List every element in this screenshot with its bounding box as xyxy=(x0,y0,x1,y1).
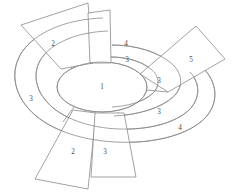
outer-ring-label-left: 3 xyxy=(29,95,33,103)
petal-upper-left-label: 2 xyxy=(51,40,55,48)
outer-ring-label-lower-right: 4 xyxy=(178,124,182,132)
petal-bottom-left-label: 2 xyxy=(71,148,75,156)
petal-right-label: 5 xyxy=(189,56,193,64)
petal-upper-left xyxy=(21,3,93,69)
petal-bottom-center xyxy=(91,113,136,177)
petal-bottom-center-label: 3 xyxy=(103,148,107,156)
middle-ring-label-top: 3 xyxy=(125,56,129,64)
middle-ring-label-lower: 3 xyxy=(157,108,161,116)
outer-ring-label-top: 4 xyxy=(124,40,128,48)
diagram-canvas: 2 1 4 3 3 5 3 3 4 2 3 xyxy=(0,0,233,194)
middle-ring-label-right: 3 xyxy=(157,77,161,85)
radial-ring-diagram: 2 1 4 3 3 5 3 3 4 2 3 xyxy=(0,0,233,194)
center-ellipse-label: 1 xyxy=(100,83,104,91)
